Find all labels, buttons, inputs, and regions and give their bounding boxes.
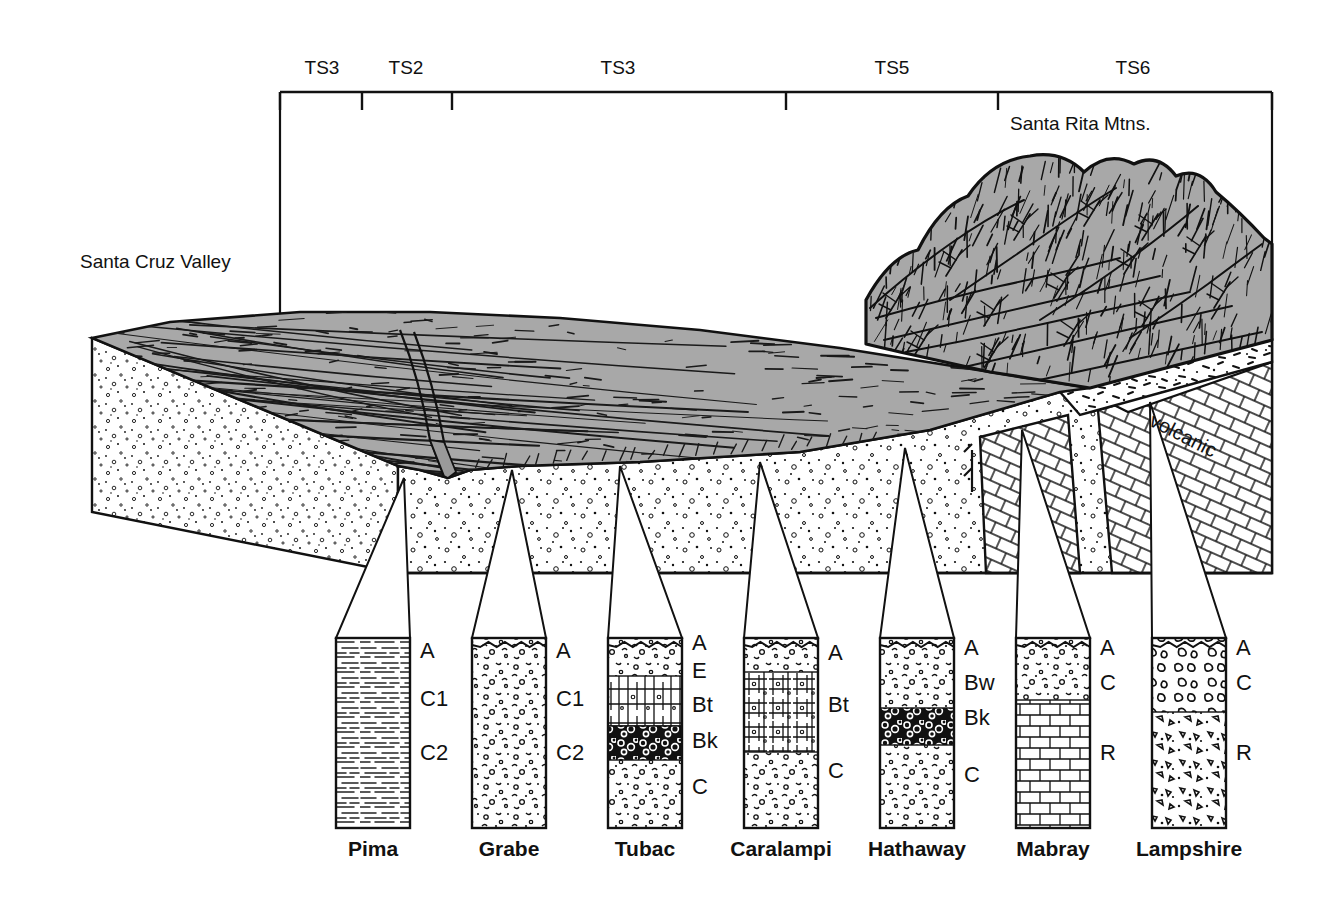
slope-hachure [892, 242, 899, 257]
fan-dash [731, 341, 758, 342]
fan-dash [289, 400, 297, 401]
slope-hachure [1136, 318, 1137, 331]
soil-profile-grabe: AC1C2Grabe [472, 638, 584, 860]
horizon-label-c: C [692, 774, 708, 799]
fan-dash [751, 343, 774, 344]
slope-hachure [983, 344, 984, 367]
fan-dash [619, 404, 628, 405]
figure-canvas: TS3TS2TS3TS5TS6 [0, 0, 1333, 905]
slope-hachure [934, 173, 937, 181]
slope-hachure [916, 217, 922, 233]
scale-label-0: TS3 [305, 57, 340, 78]
slope-hachure [1223, 164, 1224, 188]
slope-hachure [913, 189, 916, 210]
slope-hachure [1162, 270, 1163, 278]
slope-hachure [1129, 179, 1130, 195]
fan-dash [340, 440, 349, 441]
slope-hachure [912, 253, 913, 271]
slope-hachure [895, 228, 906, 248]
scale-label-1: TS2 [389, 57, 424, 78]
slope-hachure [931, 219, 932, 241]
fan-dash [591, 317, 609, 318]
fan-dash [552, 312, 569, 313]
horizon-label-r: R [1100, 740, 1116, 765]
fan-dash [350, 328, 357, 329]
fan-dash [367, 405, 373, 406]
fan-dash [554, 460, 561, 461]
slope-hachure [1109, 262, 1110, 270]
fan-dash [794, 327, 821, 329]
slope-hachure [870, 158, 882, 178]
series-name-lampshire: Lampshire [1136, 837, 1242, 860]
slope-hachure [868, 269, 875, 283]
slope-hachure [968, 159, 969, 176]
profile-band-bk [880, 708, 954, 745]
slope-hachure [937, 159, 943, 172]
slope-hachure [1152, 199, 1153, 208]
terrace-scale-bar: TS3TS2TS3TS5TS6 [280, 57, 1272, 110]
soil-profile-columns: AC1C2PimaAC1C2GrabeAEBtBkCTubacABtCCaral… [336, 630, 1252, 860]
fan-dash [817, 377, 832, 378]
fan-dash [702, 417, 711, 418]
slope-hachure [992, 275, 993, 283]
fan-dash [583, 385, 589, 386]
fan-dash [347, 437, 359, 438]
fan-dash [614, 397, 637, 398]
slope-hachure [907, 198, 913, 221]
slope-hachure [1260, 154, 1265, 174]
soil-profile-tubac: AEBtBkCTubac [608, 630, 719, 860]
fan-dash [127, 316, 154, 317]
slope-hachure [955, 187, 961, 196]
horizon-label-bt: Bt [692, 692, 713, 717]
horizon-label-a: A [692, 630, 707, 655]
slope-hachure [868, 247, 869, 257]
fan-dash [750, 312, 756, 314]
horizon-label-a: A [964, 635, 979, 660]
fan-dash [852, 367, 872, 368]
slope-hachure [975, 152, 977, 172]
slope-hachure [962, 167, 966, 187]
horizon-label-c1: C1 [556, 686, 584, 711]
slope-hachure [913, 194, 925, 216]
fan-dash [404, 322, 411, 323]
slope-hachure [871, 297, 872, 311]
slope-hachure [1252, 160, 1256, 177]
slope-hachure [1018, 189, 1019, 212]
slope-hachure [896, 190, 904, 207]
horizon-label-e: E [692, 658, 707, 683]
fan-dash [636, 319, 652, 321]
horizon-label-bw: Bw [964, 670, 995, 695]
slope-hachure [1181, 304, 1182, 322]
fan-dash [201, 376, 212, 377]
profile-matrix [336, 638, 410, 828]
slope-hachure [1246, 236, 1247, 259]
series-name-pima: Pima [348, 837, 399, 860]
horizon-label-a: A [556, 638, 571, 663]
slope-hachure [997, 247, 998, 272]
slope-hachure [956, 218, 957, 229]
horizon-label-a: A [1236, 635, 1251, 660]
fan-dash [388, 336, 397, 337]
soil-profile-caralampi: ABtCCaralampi [730, 638, 849, 860]
slope-hachure [1176, 190, 1177, 201]
slope-hachure [897, 183, 899, 194]
slope-hachure [985, 306, 986, 325]
fan-dash [201, 315, 211, 316]
fan-dash [839, 396, 857, 397]
fan-dash [764, 345, 792, 346]
valley-label: Santa Cruz Valley [80, 251, 231, 272]
slope-hachure [1212, 156, 1215, 174]
slope-hachure [1241, 170, 1246, 181]
slope-hachure [1252, 206, 1255, 215]
slope-hachure [880, 160, 882, 184]
slope-hachure [969, 156, 971, 170]
horizon-label-c: C [964, 762, 980, 787]
fan-dash [239, 350, 256, 351]
fan-dash [515, 330, 534, 331]
horizon-label-a: A [1100, 635, 1115, 660]
profile-matrix [472, 638, 546, 828]
slope-hachure [1261, 188, 1268, 208]
horizon-label-c: C [1100, 670, 1116, 695]
fan-dash [305, 350, 320, 351]
slope-hachure [1240, 173, 1245, 187]
